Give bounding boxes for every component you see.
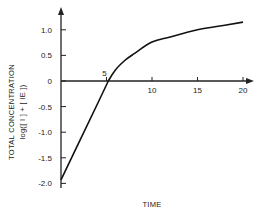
data-line — [61, 22, 243, 180]
y-axis-title: TOTAL CONCENTRATION — [7, 64, 16, 160]
y-tick-label: -2.0 — [38, 179, 52, 188]
x-axis-title: TIME — [142, 200, 161, 209]
y-axis: 1.00.50-0.5-1.0-1.5-2.0 — [38, 7, 66, 188]
x-axis-arrow-icon — [246, 78, 254, 84]
y-tick-label: -1.0 — [38, 128, 52, 137]
x-tick-label: 5 — [102, 69, 107, 78]
y-tick-label: -1.5 — [38, 154, 52, 163]
y-axis-subtitle: log([ I ] + [ IE ]) — [18, 84, 27, 139]
y-tick-label: 0.5 — [41, 51, 53, 60]
x-tick-label: 20 — [239, 86, 248, 95]
y-axis-arrow-icon — [58, 7, 64, 15]
y-tick-label: 0 — [48, 77, 53, 86]
y-tick-label: -0.5 — [38, 103, 52, 112]
y-tick-label: 1.0 — [41, 26, 53, 35]
x-tick-label: 15 — [193, 86, 202, 95]
x-tick-label: 10 — [148, 86, 157, 95]
x-axis: 5101520 — [61, 69, 254, 95]
line-chart: 1.00.50-0.5-1.0-1.5-2.0 5101520 TIME TOT… — [0, 0, 265, 216]
